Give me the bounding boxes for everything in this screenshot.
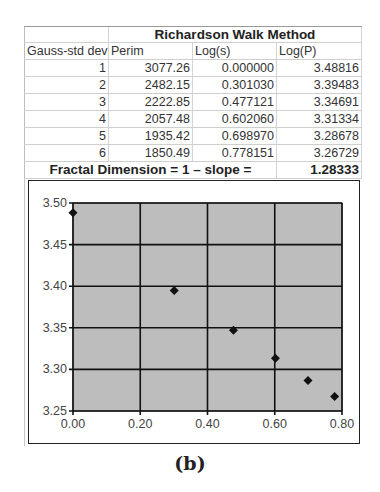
gauss-cell[interactable]: 5 — [24, 128, 109, 144]
logp-cell[interactable]: 3.26729 — [277, 145, 362, 161]
gauss-cell[interactable]: 4 — [24, 111, 109, 127]
y-tick-label: 3.50 — [43, 196, 67, 210]
perim-cell[interactable]: 3077.26 — [109, 60, 193, 76]
x-tick-label: 0.20 — [128, 417, 152, 431]
table-title[interactable]: Richardson Walk Method — [109, 27, 362, 42]
fractal-dimension-value[interactable]: 1.28333 — [277, 162, 362, 178]
table-row: 51935.420.6989703.28678 — [24, 128, 362, 145]
y-tick-label: 3.25 — [43, 404, 67, 418]
logp-cell[interactable]: 3.31334 — [277, 111, 362, 127]
x-tick-label: 0.80 — [330, 417, 354, 431]
table-row: 22482.150.3010303.39483 — [24, 77, 362, 94]
table-row: 13077.260.0000003.48816 — [24, 60, 362, 77]
scatter-chart: 0.000.200.400.600.803.253.303.353.403.45… — [28, 180, 360, 444]
logs-cell[interactable]: 0.602060 — [193, 111, 277, 127]
title-spacer-cell[interactable] — [24, 27, 109, 42]
x-tick-label: 0.40 — [195, 417, 219, 431]
y-tick-label: 3.35 — [43, 321, 67, 335]
spreadsheet-table: Richardson Walk Method Gauss-std dev Per… — [24, 26, 362, 179]
perim-cell[interactable]: 1935.42 — [109, 128, 193, 144]
logp-cell[interactable]: 3.48816 — [277, 60, 362, 76]
logs-cell[interactable]: 0.477121 — [193, 94, 277, 110]
x-tick-label: 0.60 — [263, 417, 287, 431]
logs-cell[interactable]: 0.000000 — [193, 60, 277, 76]
perim-cell[interactable]: 2057.48 — [109, 111, 193, 127]
header-perim[interactable]: Perim — [109, 43, 193, 59]
logp-cell[interactable]: 3.34691 — [277, 94, 362, 110]
perim-cell[interactable]: 1850.49 — [109, 145, 193, 161]
header-logs[interactable]: Log(s) — [193, 43, 277, 59]
logs-cell[interactable]: 0.301030 — [193, 77, 277, 93]
logp-cell[interactable]: 3.39483 — [277, 77, 362, 93]
header-logp[interactable]: Log(P) — [277, 43, 362, 59]
header-gauss[interactable]: Gauss-std dev — [24, 43, 109, 59]
perim-cell[interactable]: 2482.15 — [109, 77, 193, 93]
fractal-dimension-row: Fractal Dimension = 1 – slope = 1.28333 — [24, 162, 362, 179]
x-tick-label: 0.00 — [61, 417, 85, 431]
logs-cell[interactable]: 0.778151 — [193, 145, 277, 161]
y-tick-label: 3.30 — [43, 362, 67, 376]
table-row: 42057.480.6020603.31334 — [24, 111, 362, 128]
logs-cell[interactable]: 0.698970 — [193, 128, 277, 144]
fractal-dimension-label[interactable]: Fractal Dimension = 1 – slope = — [24, 162, 277, 178]
table-row: 61850.490.7781513.26729 — [24, 145, 362, 162]
title-row: Richardson Walk Method — [24, 26, 362, 43]
gauss-cell[interactable]: 2 — [24, 77, 109, 93]
perim-cell[interactable]: 2222.85 — [109, 94, 193, 110]
y-tick-label: 3.40 — [43, 279, 67, 293]
chart-plot: 0.000.200.400.600.803.253.303.353.403.45… — [29, 181, 358, 442]
logp-cell[interactable]: 3.28678 — [277, 128, 362, 144]
figure-caption: (b) — [0, 452, 380, 474]
table-row: 32222.850.4771213.34691 — [24, 94, 362, 111]
header-row: Gauss-std dev Perim Log(s) Log(P) — [24, 43, 362, 60]
gauss-cell[interactable]: 1 — [24, 60, 109, 76]
gauss-cell[interactable]: 3 — [24, 94, 109, 110]
y-tick-label: 3.45 — [43, 238, 67, 252]
gauss-cell[interactable]: 6 — [24, 145, 109, 161]
